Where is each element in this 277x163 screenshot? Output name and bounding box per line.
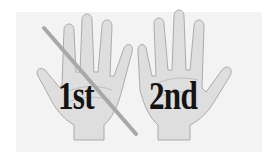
label-second: 2nd <box>149 76 197 116</box>
label-first: 1st <box>58 76 94 116</box>
hands-illustration <box>0 0 277 163</box>
